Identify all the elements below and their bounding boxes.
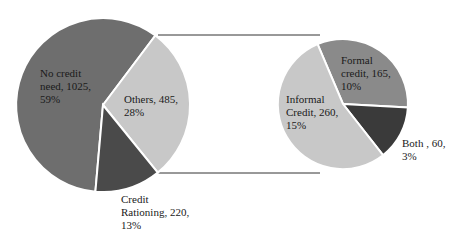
label-informal-credit: Informal Credit, 260, 15% <box>286 93 338 132</box>
label-no-credit-need: No credit need, 1025, 59% <box>40 67 91 106</box>
pie-of-pie-chart <box>0 0 461 241</box>
label-others: Others, 485, 28% <box>124 93 178 119</box>
label-both: Both , 60, 3% <box>402 137 445 163</box>
label-credit-rationing: Credit Rationing, 220, 13% <box>121 193 189 232</box>
label-formal-credit: Formal credit, 165, 10% <box>341 54 391 93</box>
